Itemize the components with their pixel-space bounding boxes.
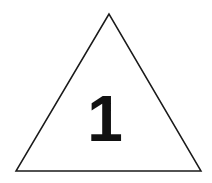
triangle-diagram: 1: [0, 0, 212, 183]
triangle-label: 1: [87, 83, 123, 155]
